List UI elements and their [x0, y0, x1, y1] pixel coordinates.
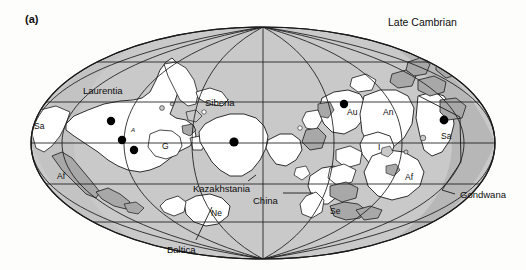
- island-india-small: [404, 150, 408, 154]
- label-af-west: Af: [57, 172, 65, 181]
- label-india: I: [378, 143, 380, 152]
- label-laurentia: Laurentia: [83, 86, 123, 96]
- figure-panel: (a) Late Cambrian Laurentia Siberia Kaza…: [0, 0, 526, 270]
- micro-island-2: [170, 102, 174, 106]
- label-af-east: Af: [405, 173, 413, 182]
- label-se-asia: Se: [330, 207, 340, 216]
- micro-island-1: [160, 106, 165, 111]
- panel-letter: (a): [25, 14, 38, 25]
- label-greenland: G: [162, 142, 169, 151]
- label-australia: Au: [347, 108, 357, 117]
- label-sa-west: Sa: [34, 122, 44, 131]
- label-china: China: [253, 196, 278, 206]
- label-kazakhstania: Kazakhstania: [193, 184, 250, 194]
- label-avalonia: A: [131, 127, 135, 133]
- pole-marker-south-america: [440, 116, 449, 125]
- island-siberia-east: [298, 126, 302, 130]
- era-title: Late Cambrian: [388, 17, 457, 28]
- pole-marker-laurentia-south: [130, 146, 138, 154]
- label-siberia: Siberia: [205, 98, 235, 108]
- pole-marker-laurentia-north: [107, 117, 115, 125]
- label-sa-east: Sa: [441, 132, 451, 141]
- label-gondwana: Gondwana: [460, 190, 506, 200]
- micro-island-3: [202, 110, 206, 114]
- label-antarctica: An: [383, 108, 393, 117]
- label-baltica: Baltica: [167, 245, 196, 255]
- pole-marker-laurentia-mid: [118, 136, 126, 144]
- island-africa-east: [420, 135, 426, 141]
- pole-marker-siberia: [229, 137, 238, 146]
- label-newfoundland: Ne: [211, 209, 222, 218]
